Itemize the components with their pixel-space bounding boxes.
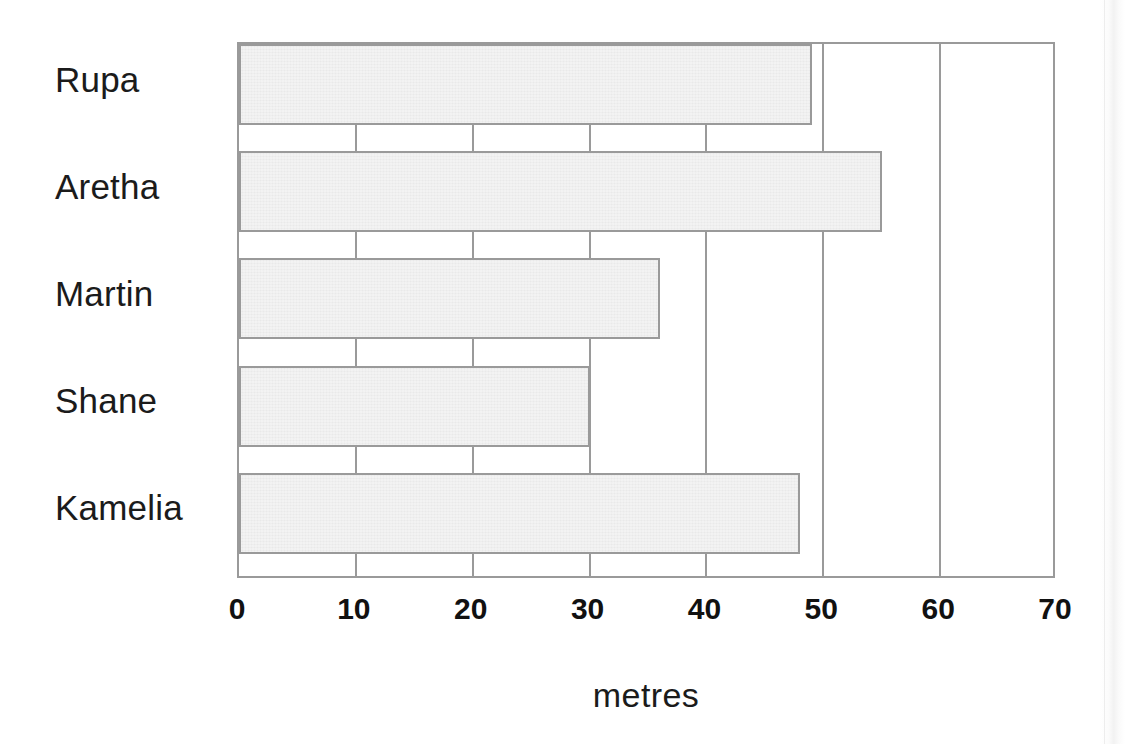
x-tick-30: 30 [571,592,604,626]
bar-aretha [239,151,882,232]
x-axis-tick-labels: 0 10 20 30 40 50 60 70 [237,592,1055,638]
gridline-60 [939,44,941,576]
category-label-martin: Martin [0,274,198,314]
x-tick-20: 20 [454,592,487,626]
category-axis-labels: Rupa Aretha Martin Shane Kamelia [0,42,222,578]
x-tick-10: 10 [337,592,370,626]
bar-rupa [239,44,812,125]
gridline-50 [822,44,824,576]
x-tick-0: 0 [229,592,246,626]
x-tick-50: 50 [805,592,838,626]
plot-area [237,42,1055,578]
page-edge-line [1104,0,1105,744]
bar-shane [239,366,590,447]
category-label-shane: Shane [0,381,198,421]
bar-martin [239,258,660,339]
x-tick-70: 70 [1038,592,1071,626]
category-label-kamelia: Kamelia [0,488,198,528]
x-tick-40: 40 [688,592,721,626]
x-axis-title: metres [237,676,1055,715]
category-label-rupa: Rupa [0,60,198,100]
bar-kamelia [239,473,800,554]
bar-chart-figure: Rupa Aretha Martin Shane Kamelia 0 10 20… [0,0,1125,744]
x-tick-60: 60 [921,592,954,626]
category-label-aretha: Aretha [0,167,198,207]
